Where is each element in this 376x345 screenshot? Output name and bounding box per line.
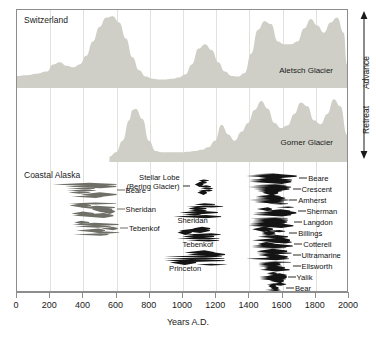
tick-1000	[182, 292, 183, 298]
record-spike	[73, 233, 108, 235]
record-spike	[68, 202, 116, 204]
gorner-glacier-area-curve	[17, 92, 347, 162]
curve-label-gorner-glacier: Gorner Glacier	[281, 138, 333, 147]
record-spike	[66, 189, 95, 191]
record-spike	[71, 195, 102, 198]
record-spike	[257, 207, 272, 211]
record-spikes	[190, 178, 213, 195]
record-spike	[256, 252, 291, 254]
glacier-record-label: Princeton	[169, 264, 201, 273]
tick-label-1600: 1600	[272, 300, 292, 310]
leader-line	[298, 211, 306, 212]
leader-line	[294, 222, 302, 223]
leader-line	[183, 186, 190, 187]
glacier-record-label: Sheridan	[126, 205, 156, 214]
record-spike	[74, 225, 111, 228]
axis-label-retreat: Retreat	[361, 106, 371, 134]
tick-label-1400: 1400	[238, 300, 258, 310]
panel-title-switzerland: Switzerland	[24, 15, 68, 25]
record-spikes	[67, 201, 117, 218]
glacier-record-label: Billings	[298, 229, 322, 238]
panel-coastal-alaska: Coastal Alaska BeareSheridanTebenkofStel…	[17, 164, 347, 291]
leader-line	[299, 178, 307, 179]
glacier-record-label: Amherst	[298, 196, 326, 205]
leader-line	[117, 209, 125, 210]
record-spike	[68, 191, 90, 193]
record-spike	[266, 283, 286, 286]
leader-line	[294, 244, 302, 245]
record-spike	[276, 206, 294, 208]
tick-600	[116, 292, 117, 298]
tick-label-1000: 1000	[172, 300, 192, 310]
record-spike	[195, 203, 216, 205]
glacier-record-label: Crescent	[302, 185, 332, 194]
leader-line	[293, 189, 301, 190]
record-spike	[189, 206, 207, 209]
area-path	[109, 99, 347, 162]
leader-line	[120, 228, 128, 229]
tick-label-1800: 1800	[305, 300, 325, 310]
axis-label-advance: Advance	[361, 56, 371, 89]
tick-0	[16, 292, 17, 298]
tick-label-1200: 1200	[205, 300, 225, 310]
record-spike	[200, 187, 213, 189]
tick-1200	[215, 292, 216, 298]
record-spikes	[263, 282, 286, 291]
record-spike	[66, 187, 94, 189]
leader-line	[286, 288, 294, 289]
glacier-record-label: Yalik	[297, 273, 313, 282]
record-spike	[165, 259, 225, 262]
glacier-record-label: Tebenkof	[129, 224, 160, 233]
tick-label-400: 400	[75, 300, 90, 310]
glacier-record-label: Bear	[295, 284, 311, 292]
tick-400	[82, 292, 83, 298]
record-spike	[186, 205, 223, 207]
tick-label-2000: 2000	[338, 300, 358, 310]
leader-line	[288, 277, 296, 278]
panel-gorner-glacier: Gorner Glacier	[17, 92, 347, 162]
record-spikes	[72, 220, 120, 237]
panel-title-coastal-alaska: Coastal Alaska	[24, 170, 80, 180]
glacier-record-label: Beare	[308, 174, 328, 183]
glacier-record-label: Ellsworth	[302, 262, 333, 271]
tick-1400	[248, 292, 249, 298]
glacier-record-label: Cotterell	[303, 240, 331, 249]
panel-aletsch-glacier: Switzerland Aletsch Glacier	[17, 10, 347, 88]
glacier-fluctuation-figure: Switzerland Aletsch Glacier Gorner Glaci…	[0, 0, 376, 345]
tick-label-200: 200	[42, 300, 57, 310]
glacier-record-label: Sherman	[307, 207, 338, 216]
plot-frame: Switzerland Aletsch Glacier Gorner Glaci…	[16, 9, 348, 292]
glacier-record-label: Langdon	[303, 218, 333, 227]
curve-label-aletsch-glacier: Aletsch Glacier	[279, 66, 333, 75]
glacier-record-label: Ultramarine	[302, 251, 341, 260]
tick-2000	[348, 292, 349, 298]
leader-line	[293, 266, 301, 267]
tick-200	[49, 292, 50, 298]
tick-label-0: 0	[13, 300, 18, 310]
leader-line	[289, 200, 297, 201]
leader-line	[289, 233, 297, 234]
tick-800	[149, 292, 150, 298]
tick-1600	[282, 292, 283, 298]
glacier-record-label: Tebenkof	[182, 240, 213, 249]
leader-line	[117, 190, 125, 191]
tick-label-600: 600	[108, 300, 123, 310]
advance-retreat-axis: Advance Retreat	[352, 10, 376, 160]
glacier-record-label: Sheridan	[177, 216, 207, 225]
glacier-record-label: Stellar Lobe(Bering Glacier)	[126, 173, 179, 191]
x-axis-label: Years A.D.	[0, 317, 376, 327]
tick-label-800: 800	[141, 300, 156, 310]
tick-1800	[315, 292, 316, 298]
record-spike	[180, 210, 218, 214]
leader-line	[293, 255, 301, 256]
record-spikes	[52, 182, 117, 199]
area-path	[17, 16, 347, 88]
